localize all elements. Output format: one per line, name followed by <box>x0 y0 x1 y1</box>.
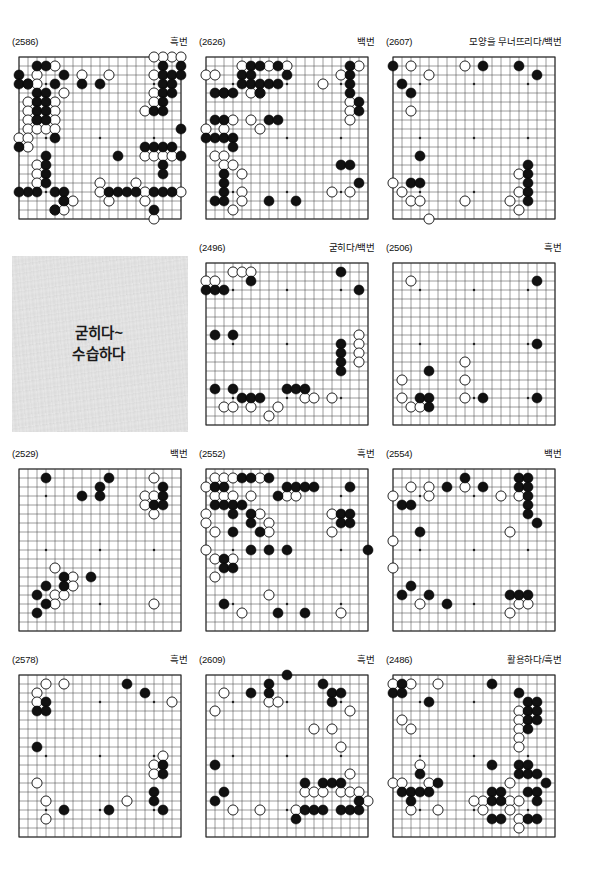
goban-svg-2 <box>386 50 562 226</box>
goban-svg-10 <box>386 668 562 844</box>
board-header-3: (2496) 굳히다/백번 <box>199 236 375 253</box>
board-cell-0: (2586) 흑번 <box>12 30 188 236</box>
board-number-10: (2486) <box>386 654 412 665</box>
board-diagram-3[interactable] <box>199 256 375 432</box>
board-tag-1: 백번 <box>357 36 375 47</box>
goban-svg-3 <box>199 256 375 432</box>
board-tag-6: 흑번 <box>357 448 375 459</box>
board-header-7: (2554) 백번 <box>386 442 562 459</box>
board-number-6: (2552) <box>199 448 225 459</box>
board-cell-6: (2552) 흑번 <box>199 442 375 648</box>
board-diagram-0[interactable] <box>12 50 188 226</box>
goban-svg-9 <box>199 668 375 844</box>
board-cell-4: (2506) 흑번 <box>386 236 562 442</box>
board-number-7: (2554) <box>386 448 412 459</box>
board-diagram-9[interactable] <box>199 668 375 844</box>
board-tag-5: 백번 <box>170 448 188 459</box>
board-tag-2: 모양을 무너뜨리다/백번 <box>469 36 562 47</box>
board-cell-9: (2609) 흑번 <box>199 648 375 854</box>
goban-svg-8 <box>12 668 188 844</box>
board-header-2: (2607) 모양을 무너뜨리다/백번 <box>386 30 562 47</box>
board-number-1: (2626) <box>199 36 225 47</box>
board-diagram-2[interactable] <box>386 50 562 226</box>
board-number-3: (2496) <box>199 242 225 253</box>
board-tag-3: 굳히다/백번 <box>329 242 375 253</box>
board-cell-5: (2529) 백번 <box>12 442 188 648</box>
board-number-9: (2609) <box>199 654 225 665</box>
goban-svg-7 <box>386 462 562 638</box>
board-header-5: (2529) 백번 <box>12 442 188 459</box>
goban-svg-4 <box>386 256 562 432</box>
goban-svg-0 <box>12 50 188 226</box>
board-diagram-6[interactable] <box>199 462 375 638</box>
board-tag-9: 흑번 <box>357 654 375 665</box>
board-cell-1: (2626) 백번 <box>199 30 375 236</box>
board-tag-4: 흑번 <box>544 242 562 253</box>
board-row-3: (2529) 백번 (2552) 흑번 (2554) 백 <box>12 442 579 648</box>
page-root: (2586) 흑번 (2626) 백번 (2607) 모 <box>0 0 591 871</box>
board-number-2: (2607) <box>386 36 412 47</box>
board-diagram-8[interactable] <box>12 668 188 844</box>
board-header-1: (2626) 백번 <box>199 30 375 47</box>
board-number-8: (2578) <box>12 654 38 665</box>
note-cell: 굳히다~ 수습하다 <box>12 236 188 442</box>
board-number-0: (2586) <box>12 36 38 47</box>
board-cell-3: (2496) 굳히다/백번 <box>199 236 375 442</box>
goban-svg-6 <box>199 462 375 638</box>
board-diagram-1[interactable] <box>199 50 375 226</box>
board-header-0: (2586) 흑번 <box>12 30 188 47</box>
board-diagram-7[interactable] <box>386 462 562 638</box>
board-grid: (2586) 흑번 (2626) 백번 (2607) 모 <box>12 30 579 854</box>
note-line-1: 굳히다~ <box>75 323 124 344</box>
board-number-5: (2529) <box>12 448 38 459</box>
board-cell-8: (2578) 흑번 <box>12 648 188 854</box>
board-diagram-5[interactable] <box>12 462 188 638</box>
concept-note-panel: 굳히다~ 수습하다 <box>12 256 188 432</box>
board-cell-10: (2486) 활용하다/흑번 <box>386 648 562 854</box>
board-diagram-10[interactable] <box>386 668 562 844</box>
board-row-1: (2586) 흑번 (2626) 백번 (2607) 모 <box>12 30 579 236</box>
goban-svg-1 <box>199 50 375 226</box>
board-header-4: (2506) 흑번 <box>386 236 562 253</box>
board-row-4: (2578) 흑번 (2609) 흑번 (2486) 활 <box>12 648 579 854</box>
board-cell-2: (2607) 모양을 무너뜨리다/백번 <box>386 30 562 236</box>
board-tag-0: 흑번 <box>170 36 188 47</box>
goban-svg-5 <box>12 462 188 638</box>
board-cell-7: (2554) 백번 <box>386 442 562 648</box>
board-tag-10: 활용하다/흑번 <box>507 654 562 665</box>
board-header-8: (2578) 흑번 <box>12 648 188 665</box>
board-header-10: (2486) 활용하다/흑번 <box>386 648 562 665</box>
board-header-9: (2609) 흑번 <box>199 648 375 665</box>
board-number-4: (2506) <box>386 242 412 253</box>
board-row-2: 굳히다~ 수습하다 (2496) 굳히다/백번 (2506) 흑번 <box>12 236 579 442</box>
note-line-2: 수습하다 <box>72 344 125 365</box>
board-header-6: (2552) 흑번 <box>199 442 375 459</box>
board-diagram-4[interactable] <box>386 256 562 432</box>
board-tag-7: 백번 <box>544 448 562 459</box>
board-tag-8: 흑번 <box>170 654 188 665</box>
